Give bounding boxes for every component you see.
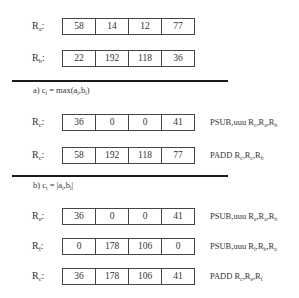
register-box: 36 0 0 41 bbox=[62, 114, 195, 131]
section-b-row: Re: 36 0 0 41 PSUB,uuu Re,Ra,Rb bbox=[0, 208, 299, 225]
instruction-text: PADD Rc,Re,Rf bbox=[210, 269, 263, 283]
register-label: Ra: bbox=[32, 19, 44, 33]
section-divider bbox=[12, 175, 228, 177]
instruction-text: PSUB,uuu Re,Ra,Rb bbox=[210, 209, 277, 223]
register-box: 58 14 12 77 bbox=[62, 18, 195, 35]
register-cell: 36 bbox=[63, 209, 96, 224]
register-cell: 0 bbox=[96, 209, 129, 224]
register-cell: 22 bbox=[63, 51, 96, 66]
register-cell: 41 bbox=[162, 269, 194, 284]
section-b-title: b) ci = |ai,bi| bbox=[33, 179, 73, 191]
register-cell: 58 bbox=[63, 148, 96, 163]
register-label: Rc: bbox=[32, 269, 44, 283]
register-cell: 36 bbox=[162, 51, 194, 66]
register-label: Rc: bbox=[32, 115, 44, 129]
register-cell: 14 bbox=[96, 19, 129, 34]
register-cell: 178 bbox=[96, 239, 129, 254]
register-cell: 178 bbox=[96, 269, 129, 284]
register-box: 36 0 0 41 bbox=[62, 208, 195, 225]
register-box: 0 178 106 0 bbox=[62, 238, 195, 255]
register-cell: 77 bbox=[162, 19, 194, 34]
section-b-row: Rc: 36 178 106 41 PADD Rc,Re,Rf bbox=[0, 268, 299, 285]
register-cell: 36 bbox=[63, 115, 96, 130]
register-box: 36 178 106 41 bbox=[62, 268, 195, 285]
register-cell: 0 bbox=[63, 239, 96, 254]
register-label: Re: bbox=[32, 209, 44, 223]
section-divider bbox=[12, 80, 228, 82]
register-cell: 118 bbox=[129, 148, 162, 163]
register-cell: 106 bbox=[129, 269, 162, 284]
register-cell: 106 bbox=[129, 239, 162, 254]
instruction-text: PSUB,uuu Rc,Ra,Rb bbox=[210, 115, 277, 129]
register-cell: 41 bbox=[162, 115, 194, 130]
instruction-text: PADD Rc,Rc,Rb bbox=[210, 148, 263, 162]
register-cell: 12 bbox=[129, 19, 162, 34]
section-a-row: Rc: 36 0 0 41 PSUB,uuu Rc,Ra,Rb bbox=[0, 114, 299, 131]
register-label: Rc: bbox=[32, 148, 44, 162]
register-cell: 0 bbox=[129, 209, 162, 224]
register-cell: 36 bbox=[63, 269, 96, 284]
section-a-row: Rc: 58 192 118 77 PADD Rc,Rc,Rb bbox=[0, 147, 299, 164]
register-cell: 0 bbox=[162, 239, 194, 254]
register-cell: 192 bbox=[96, 148, 129, 163]
register-label: Rb: bbox=[32, 51, 45, 65]
register-row-rb: Rb: 22 192 118 36 bbox=[0, 50, 299, 67]
register-cell: 118 bbox=[129, 51, 162, 66]
section-a-title: a) ci = max(ai,bi) bbox=[33, 84, 90, 96]
register-box: 58 192 118 77 bbox=[62, 147, 195, 164]
section-b-row: Rf: 0 178 106 0 PSUB,uuu Rf,Rb,Ra bbox=[0, 238, 299, 255]
register-cell: 58 bbox=[63, 19, 96, 34]
register-cell: 192 bbox=[96, 51, 129, 66]
register-box: 22 192 118 36 bbox=[62, 50, 195, 67]
register-row-ra: Ra: 58 14 12 77 bbox=[0, 18, 299, 35]
register-cell: 41 bbox=[162, 209, 194, 224]
register-cell: 0 bbox=[96, 115, 129, 130]
register-label: Rf: bbox=[32, 239, 44, 253]
register-cell: 0 bbox=[129, 115, 162, 130]
instruction-text: PSUB,uuu Rf,Rb,Ra bbox=[210, 239, 277, 253]
register-cell: 77 bbox=[162, 148, 194, 163]
